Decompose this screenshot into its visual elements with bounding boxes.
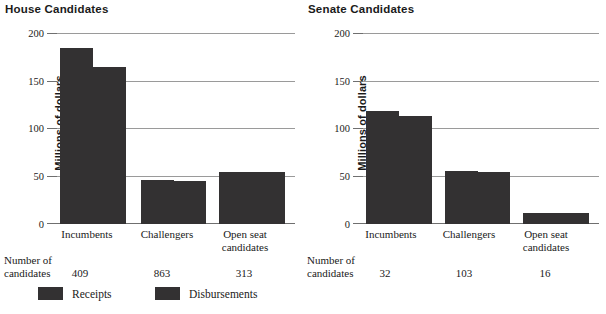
bar-openseat-disbursements-senate[interactable] <box>556 213 589 225</box>
y-tick-label-100-senate: 100 <box>334 123 350 134</box>
legend-swatch-disbursements <box>155 287 180 300</box>
chart-panel-senate: Senate Candidates Millions of dollars 20… <box>303 0 606 314</box>
plot-area-senate: Millions of dollars 200 150 100 50 0 <box>363 33 591 224</box>
candidate-count-openseat-senate: 16 <box>515 267 575 279</box>
candidate-count-incumbents-senate: 32 <box>355 267 415 279</box>
y-tick-label-50-house: 50 <box>34 171 45 182</box>
bar-group-challengers-house <box>141 33 206 224</box>
candidate-count-openseat-house: 313 <box>214 267 274 279</box>
bar-group-incumbents-senate <box>366 33 432 224</box>
tick-mark-150-house <box>47 81 57 82</box>
plot-area-house: Millions of dollars 200 150 100 50 0 <box>57 33 287 224</box>
legend-label-receipts: Receipts <box>72 288 112 300</box>
candidate-count-row-label-senate: Number of candidates <box>307 254 355 280</box>
bar-openseat-receipts-house[interactable] <box>219 172 252 225</box>
bar-challengers-disbursements-senate[interactable] <box>478 172 511 225</box>
bar-openseat-receipts-senate[interactable] <box>523 213 556 225</box>
bar-challengers-disbursements-house[interactable] <box>174 181 207 224</box>
tick-mark-50-house <box>47 176 57 177</box>
y-tick-label-150-senate: 150 <box>334 76 350 87</box>
bar-challengers-receipts-house[interactable] <box>141 180 174 224</box>
tick-mark-200-senate <box>353 33 363 34</box>
candidate-count-row-label-house: Number of candidates <box>4 254 52 280</box>
legend-label-disbursements: Disbursements <box>189 288 257 300</box>
bar-group-incumbents-house <box>60 33 126 224</box>
chart-panel-house: House Candidates Millions of dollars 200… <box>0 0 303 314</box>
legend-item-disbursements[interactable]: Disbursements <box>155 287 257 300</box>
y-tick-label-100-house: 100 <box>28 123 44 134</box>
tick-mark-200-house <box>47 33 57 34</box>
y-tick-label-150-house: 150 <box>28 76 44 87</box>
bar-group-openseat-house <box>219 33 285 224</box>
y-tick-label-200-senate: 200 <box>334 28 350 39</box>
bar-group-challengers-senate <box>445 33 510 224</box>
tick-mark-150-senate <box>353 81 363 82</box>
campaign-finance-figure: House Candidates Millions of dollars 200… <box>0 0 606 314</box>
bar-incumbents-receipts-house[interactable] <box>60 48 93 224</box>
bar-incumbents-disbursements-house[interactable] <box>93 67 126 224</box>
bar-incumbents-receipts-senate[interactable] <box>366 111 399 224</box>
legend-item-receipts[interactable]: Receipts <box>38 287 112 300</box>
bar-challengers-receipts-senate[interactable] <box>445 171 478 225</box>
chart-legend: Receipts Disbursements <box>0 287 303 307</box>
tick-mark-50-senate <box>353 176 363 177</box>
chart-title-house: House Candidates <box>5 3 109 15</box>
y-tick-label-200-house: 200 <box>28 28 44 39</box>
tick-mark-100-house <box>47 128 57 129</box>
legend-swatch-receipts <box>38 287 63 300</box>
tick-mark-100-senate <box>353 128 363 129</box>
candidate-count-incumbents-house: 409 <box>50 267 110 279</box>
candidate-count-challengers-house: 863 <box>132 267 192 279</box>
bar-openseat-disbursements-house[interactable] <box>252 172 285 224</box>
y-tick-label-50-senate: 50 <box>340 171 351 182</box>
x-category-label-openseat-senate: Open seat candidates <box>491 228 601 253</box>
candidate-count-challengers-senate: 103 <box>434 267 494 279</box>
bar-group-openseat-senate <box>523 33 589 224</box>
bar-incumbents-disbursements-senate[interactable] <box>399 116 432 224</box>
x-category-label-openseat-house: Open seat candidates <box>190 228 300 253</box>
chart-title-senate: Senate Candidates <box>308 3 414 15</box>
